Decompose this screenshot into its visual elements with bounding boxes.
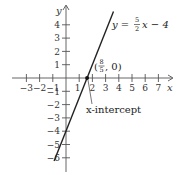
equation-suffix: x − 4	[142, 19, 169, 30]
point-numerator: 8	[99, 58, 103, 66]
y-tick-label: 1	[54, 60, 60, 70]
x-tick-label: 7	[156, 83, 162, 93]
x-intercept-point	[85, 76, 89, 80]
equation-label: y = 5 2 x − 4	[111, 16, 169, 33]
y-axis-label: y	[55, 5, 62, 16]
point-label: ( 8 5 , 0)	[94, 58, 122, 74]
y-tick-label: −3	[47, 113, 61, 123]
point-label-open: (	[94, 61, 98, 72]
x-tick-label: 2	[90, 83, 96, 93]
y-tick-labels: 4 3 2 1 −1 −2 −3 −4 −5 −6	[47, 20, 61, 163]
y-tick-label: 4	[54, 20, 60, 30]
x-tick-label: 5	[129, 83, 135, 93]
x-tick-labels: −3 −2 −1 1 2 3 4 5 6 7	[20, 83, 162, 93]
x-tick-label: 3	[103, 83, 109, 93]
x-tick-label: −2	[33, 83, 46, 93]
x-tick-label: −3	[20, 83, 34, 93]
equation-numerator: 5	[135, 16, 139, 24]
point-label-close: , 0)	[105, 61, 122, 72]
x-tick-label: 6	[142, 83, 148, 93]
equation-denominator: 2	[135, 25, 139, 33]
equation-prefix: y =	[111, 19, 129, 30]
x-axis-label: x	[167, 82, 173, 93]
point-denominator: 5	[99, 66, 103, 74]
x-tick-label: 4	[116, 83, 122, 93]
x-tick-label: 1	[75, 83, 81, 93]
y-tick-label: −5	[47, 140, 61, 150]
y-tick-label: −4	[47, 126, 61, 136]
y-tick-label: −6	[47, 153, 61, 163]
y-tick-label: −1	[47, 87, 60, 97]
x-intercept-label: x-intercept	[86, 104, 141, 115]
graph-canvas: −3 −2 −1 1 2 3 4 5 6 7 4 3 2 1 −1 −2 −3 …	[0, 0, 182, 175]
y-tick-label: 3	[54, 33, 60, 43]
y-tick-label: −2	[47, 100, 60, 110]
y-tick-label: 2	[54, 47, 60, 57]
